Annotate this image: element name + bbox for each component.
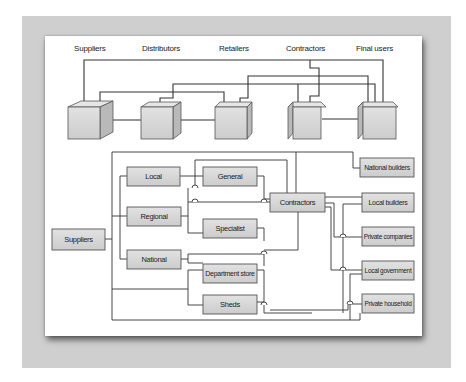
svg-text:Specialist: Specialist: [215, 224, 245, 233]
box-local-builders: Local builders: [362, 193, 414, 212]
svg-text:Department store: Department store: [205, 270, 255, 278]
svg-text:General: General: [218, 172, 243, 181]
box-private-household: Private household: [362, 294, 414, 313]
box-local: Local: [127, 167, 180, 186]
cube-suppliers: [68, 101, 113, 139]
box-general: General: [203, 167, 257, 186]
svg-text:Local builders: Local builders: [369, 199, 409, 206]
box-sheds: Sheds: [203, 295, 257, 314]
stage-label-distributors: Distributors: [142, 44, 180, 53]
box-department-store: Department store: [203, 264, 257, 283]
svg-text:Private companies: Private companies: [364, 233, 413, 241]
cube-retailers: [215, 102, 252, 139]
cube-final-users: [358, 102, 398, 139]
stage-label-suppliers: Suppliers: [74, 44, 106, 53]
box-suppliers: Suppliers: [52, 229, 105, 250]
box-local-government: Local government: [362, 261, 414, 280]
box-contractors: Contractors: [270, 193, 325, 212]
svg-text:Suppliers: Suppliers: [64, 235, 93, 244]
box-regional: Regional: [127, 207, 181, 226]
stage-label-contractors: Contractors: [286, 44, 325, 53]
box-private-companies: Private companies: [362, 227, 414, 246]
svg-text:Sheds: Sheds: [220, 300, 240, 309]
svg-text:Contractors: Contractors: [280, 198, 316, 207]
svg-text:National builders: National builders: [364, 164, 410, 171]
stage-label-final-users: Final users: [356, 44, 393, 53]
svg-text:Local: Local: [145, 172, 162, 181]
box-specialist: Specialist: [203, 219, 257, 238]
svg-text:Local government: Local government: [365, 267, 412, 275]
box-national: National: [127, 250, 181, 269]
svg-text:Regional: Regional: [140, 212, 168, 221]
svg-text:Private household: Private household: [365, 300, 413, 307]
cube-distributors: [141, 102, 181, 139]
top-stage-labels: Suppliers Distributors Retailers Contrac…: [74, 44, 393, 53]
stage-label-retailers: Retailers: [219, 44, 249, 53]
bottom-boxes: Suppliers Local Regional National Genera…: [52, 158, 414, 314]
box-national-builders: National builders: [360, 158, 414, 177]
cube-contractors: [288, 102, 326, 139]
svg-text:National: National: [141, 255, 167, 264]
channel-diagram: Suppliers Distributors Retailers Contrac…: [0, 0, 466, 382]
